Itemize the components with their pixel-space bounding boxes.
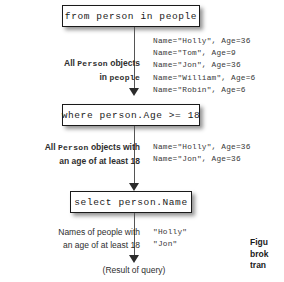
diagram-canvas: from person in people All Person objects… [0,0,284,282]
arrow-head-icon [129,183,139,191]
arrow-head-icon [129,255,139,263]
query-box-where: where person.Age >= 18 [62,104,200,126]
query-box-select: select person.Name [70,191,192,213]
figure-caption: Figu brok tran [250,237,284,272]
annotation-select: Names of people withan age of at least 1… [14,226,140,251]
annotation-from: All Person objectsin people [20,57,140,84]
data-output-where: Name="Holly", Age=36 Name="Jon", Age=36 [153,141,251,165]
annotation-where: All Person objects withan age of at leas… [8,141,140,167]
data-output-from: Name="Holly", Age=36 Name="Tom", Age=9 N… [153,35,255,96]
data-output-select: "Holly" "Jon" [153,226,187,250]
result-of-query-label: (Result of query) [0,265,268,275]
arrow-head-icon [129,88,139,96]
query-box-from: from person in people [62,5,200,27]
